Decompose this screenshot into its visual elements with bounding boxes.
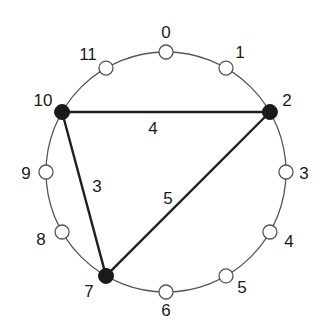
node-3 [279, 165, 293, 179]
edge-label-2-7: 5 [163, 189, 172, 208]
node-4 [263, 225, 277, 239]
node-0 [159, 45, 173, 59]
node-1 [219, 61, 233, 75]
node-11 [99, 61, 113, 75]
node-9 [39, 165, 53, 179]
node-labels: 0 1 2 3 4 5 6 7 8 9 10 11 [21, 23, 308, 320]
node-label-11: 11 [79, 45, 97, 64]
node-label-3: 3 [299, 164, 308, 183]
node-6 [159, 285, 173, 299]
node-10 [55, 105, 70, 120]
node-label-5: 5 [237, 278, 246, 297]
node-label-2: 2 [282, 91, 291, 110]
node-label-1: 1 [235, 43, 244, 62]
node-8 [55, 225, 69, 239]
ring-circle [46, 52, 286, 292]
edge-label-10-2: 4 [148, 119, 157, 138]
node-label-9: 9 [21, 164, 30, 183]
node-5 [219, 269, 233, 283]
edge-label-10-7: 3 [92, 177, 101, 196]
node-label-10: 10 [34, 91, 53, 110]
edge-2-7 [106, 112, 270, 276]
node-label-6: 6 [161, 301, 170, 320]
node-label-8: 8 [36, 230, 45, 249]
node-label-4: 4 [284, 232, 293, 251]
node-2 [262, 105, 277, 120]
edge-labels: 4 3 5 [92, 119, 172, 208]
node-label-0: 0 [161, 23, 170, 42]
circular-graph-diagram: 0 1 2 3 4 5 6 7 8 9 10 11 4 3 5 [0, 0, 330, 336]
node-7 [99, 268, 114, 283]
node-label-7: 7 [84, 282, 93, 301]
